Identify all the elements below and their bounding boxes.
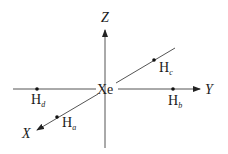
ligand-d-symbol: H — [31, 92, 41, 107]
y-axis-label: Y — [205, 82, 215, 97]
ligand-b-label: Hb — [168, 93, 182, 110]
coordinate-diagram: Z Y X Xe Ha Hb Hc Hd — [0, 0, 228, 154]
ligand-d-label: Hd — [31, 92, 46, 109]
ligand-c-label: Hc — [159, 60, 173, 77]
ligand-a-label: Ha — [62, 115, 76, 132]
ligand-a-dot — [55, 115, 59, 119]
ligand-d-subscript: d — [41, 100, 46, 109]
ligand-c-dot — [152, 58, 156, 62]
ligand-b-subscript: b — [178, 101, 182, 110]
x-axis-label: X — [21, 126, 31, 141]
ligand-c-subscript: c — [169, 68, 173, 77]
ligand-b-dot — [171, 87, 175, 91]
ligand-a-subscript: a — [72, 123, 76, 132]
ligand-d-dot — [35, 87, 39, 91]
ligand-b-symbol: H — [168, 93, 178, 108]
center-atom-label: Xe — [97, 82, 113, 97]
ligand-c-symbol: H — [159, 60, 169, 75]
ligand-a-symbol: H — [62, 115, 72, 130]
z-axis-label: Z — [101, 10, 109, 25]
